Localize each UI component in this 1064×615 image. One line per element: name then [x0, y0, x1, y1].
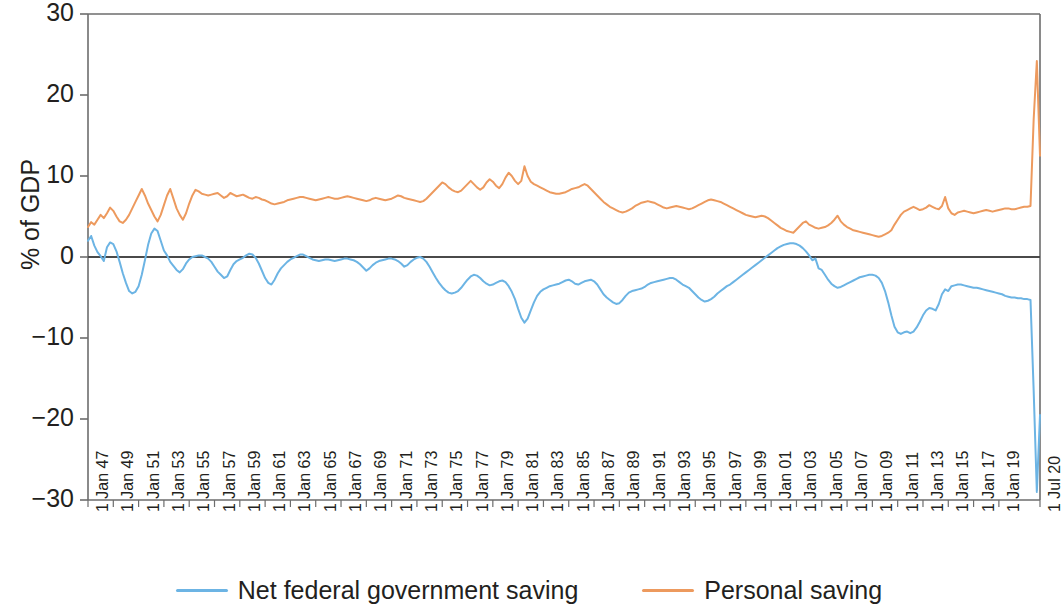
legend-label: Personal saving	[704, 578, 882, 603]
legend-color-swatch	[176, 589, 228, 592]
axis-lines	[80, 14, 1040, 507]
legend-color-swatch	[642, 589, 694, 592]
data-series-group	[88, 61, 1040, 492]
chart-legend: Net federal government savingPersonal sa…	[0, 578, 1058, 603]
series-line-personal-saving	[88, 61, 1040, 237]
legend-label: Net federal government saving	[238, 578, 578, 603]
legend-item-1[interactable]: Net federal government saving	[176, 578, 578, 603]
series-line-net-federal-government-saving	[88, 229, 1040, 492]
legend-item-2[interactable]: Personal saving	[642, 578, 882, 603]
